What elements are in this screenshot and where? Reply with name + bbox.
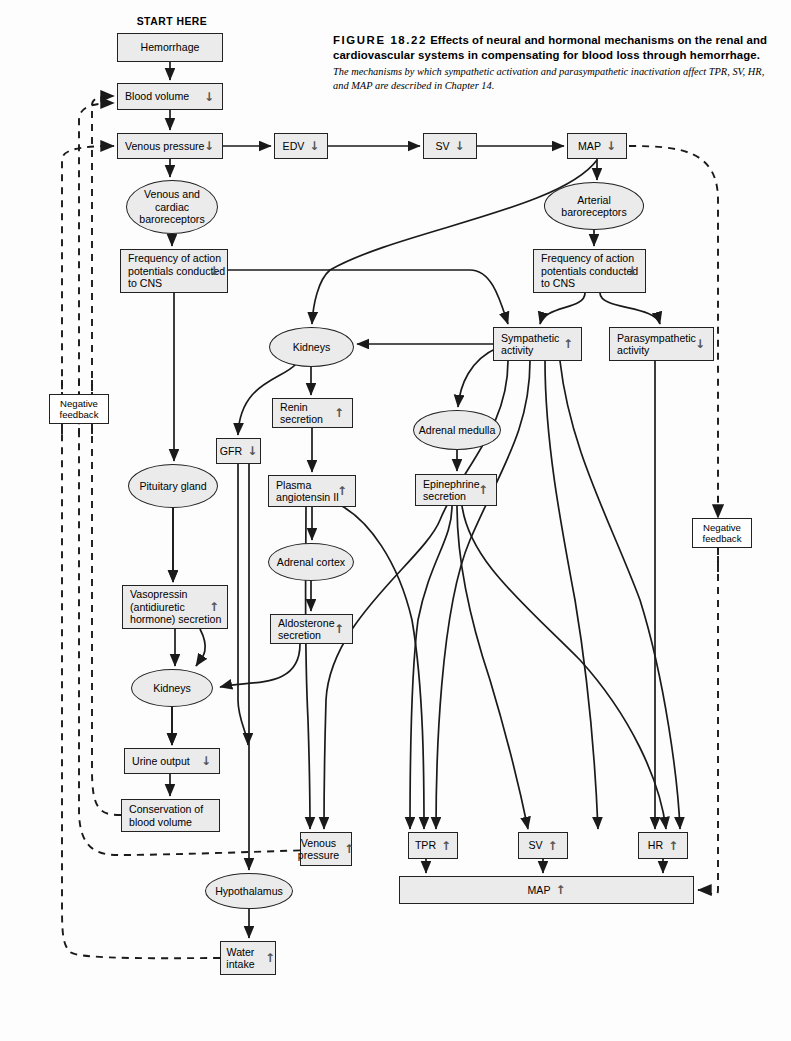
change-down-icon-venous-pressure: ↓ [204, 140, 214, 152]
change-up-icon-sympathetic-activity: ↑ [563, 338, 573, 350]
node-label-map-down: MAP [578, 140, 601, 152]
node-label-venous-cardiac-baroreceptors: Venous and cardiac baroreceptors [127, 188, 217, 225]
node-pituitary-gland: Pituitary gland [128, 464, 218, 508]
change-down-icon-map-down: ↓ [606, 140, 616, 152]
node-label-venous-pressure-up: Venous pressure [298, 837, 339, 862]
change-up-icon-aldosterone-secretion: ↑ [334, 623, 344, 635]
node-venous-pressure: Venous pressure↓ [117, 133, 223, 159]
start-here-label: START HERE [117, 16, 227, 27]
node-hemorrhage: Hemorrhage [117, 33, 223, 62]
node-vasopressin: Vasopressin (antidiuretic hormone) secre… [122, 585, 228, 629]
node-label-blood-volume: Blood volume [118, 90, 189, 102]
node-frequency-ap-left: Frequency of action potentials conducted… [120, 249, 228, 293]
node-label-tpr-up: TPR [415, 839, 436, 851]
node-label-hr-up: HR [648, 839, 663, 851]
node-renin-secretion: Renin secretion↑ [272, 398, 353, 428]
change-down-icon-frequency-ap-left: ↓ [209, 265, 219, 277]
node-tpr-up: TPR↑ [408, 832, 458, 859]
node-edv: EDV↓ [274, 133, 328, 159]
node-sympathetic-activity: Sympathetic activity↑ [493, 327, 582, 361]
node-sv-up: SV↑ [518, 832, 568, 859]
node-label-adrenal-cortex: Adrenal cortex [269, 556, 353, 568]
change-down-icon-gfr: ↓ [247, 445, 257, 457]
node-label-edv: EDV [283, 140, 305, 152]
figure-root: FIGURE 18.22 Effects of neural and hormo… [0, 0, 791, 1041]
change-up-icon-plasma-angiotensin-ii: ↑ [337, 485, 347, 497]
node-conservation-blood-volume: Conservation of blood volume [121, 799, 220, 832]
node-label-water-intake: Water intake [221, 946, 260, 971]
node-blood-volume: Blood volume↓ [117, 83, 223, 110]
node-water-intake: Water intake↑ [220, 941, 276, 975]
node-venous-cardiac-baroreceptors: Venous and cardiac baroreceptors [126, 180, 218, 234]
change-up-icon-renin-secretion: ↑ [334, 407, 344, 419]
node-label-map-up: MAP [527, 884, 550, 896]
node-kidneys-upper: Kidneys [269, 327, 354, 367]
node-label-kidneys-lower: Kidneys [132, 682, 212, 694]
change-up-icon-vasopressin: ↑ [209, 601, 219, 613]
change-down-icon-sv-down: ↓ [455, 140, 465, 152]
node-label-sv-down: SV [435, 140, 449, 152]
change-down-icon-edv: ↓ [309, 140, 319, 152]
node-label-sv-up: SV [528, 839, 542, 851]
node-kidneys-lower: Kidneys [131, 669, 213, 707]
figure-number: FIGURE 18.22 [333, 34, 427, 46]
negative-feedback-right-label: Negative feedback [693, 522, 751, 544]
node-label-urine-output: Urine output [125, 755, 190, 767]
node-epinephrine-secretion: Epinephrine secretion↑ [415, 474, 497, 506]
node-adrenal-cortex: Adrenal cortex [268, 543, 354, 581]
node-venous-pressure-up: Venous pressure↑ [300, 832, 352, 866]
node-label-adrenal-medulla: Adrenal medulla [414, 424, 500, 436]
change-up-icon-venous-pressure-up: ↑ [344, 843, 354, 855]
change-down-icon-parasympathetic-activity: ↓ [695, 338, 705, 350]
node-sv-down: SV↓ [423, 133, 477, 159]
node-label-venous-pressure: Venous pressure [118, 140, 205, 152]
node-map-down: MAP↓ [567, 133, 627, 159]
change-down-icon-blood-volume: ↓ [204, 91, 214, 103]
node-label-conservation-blood-volume: Conservation of blood volume [122, 803, 219, 828]
node-label-pituitary-gland: Pituitary gland [129, 480, 217, 492]
change-up-icon-hr-up: ↑ [668, 840, 678, 852]
change-up-icon-epinephrine-secretion: ↑ [478, 484, 488, 496]
change-up-icon-tpr-up: ↑ [441, 840, 451, 852]
node-aldosterone-secretion: Aldosterone secretion↑ [270, 614, 353, 644]
negative-feedback-right: Negative feedback [692, 518, 752, 548]
negative-feedback-left-label: Negative feedback [50, 398, 108, 420]
node-label-gfr: GFR [220, 445, 242, 457]
change-up-icon-sv-up: ↑ [548, 840, 558, 852]
node-label-kidneys-upper: Kidneys [270, 341, 353, 353]
node-parasympathetic-activity: Parasympathetic activity↓ [609, 327, 714, 361]
node-label-hypothalamus: Hypothalamus [206, 885, 292, 897]
figure-subtitle: The mechanisms by which sympathetic acti… [333, 65, 778, 93]
change-up-icon-map-up: ↑ [555, 884, 565, 896]
node-map-up: MAP↑ [399, 876, 694, 904]
node-plasma-angiotensin-ii: Plasma angiotensin II↑ [268, 475, 356, 507]
change-down-icon-urine-output: ↓ [201, 755, 211, 767]
negative-feedback-left: Negative feedback [49, 394, 109, 424]
node-gfr: GFR↓ [216, 438, 261, 464]
node-urine-output: Urine output↓ [124, 748, 220, 774]
change-up-icon-water-intake: ↑ [265, 952, 275, 964]
node-label-hemorrhage: Hemorrhage [118, 41, 222, 53]
node-label-arterial-baroreceptors: Arterial baroreceptors [545, 194, 643, 219]
node-hr-up: HR↑ [638, 832, 688, 859]
figure-caption: FIGURE 18.22 Effects of neural and hormo… [333, 33, 778, 93]
change-down-icon-frequency-ap-right: ↓ [627, 265, 637, 277]
node-frequency-ap-right: Frequency of action potentials conducted… [533, 249, 646, 293]
node-adrenal-medulla: Adrenal medulla [413, 410, 501, 450]
node-arterial-baroreceptors: Arterial baroreceptors [544, 182, 644, 230]
node-hypothalamus: Hypothalamus [205, 873, 293, 909]
